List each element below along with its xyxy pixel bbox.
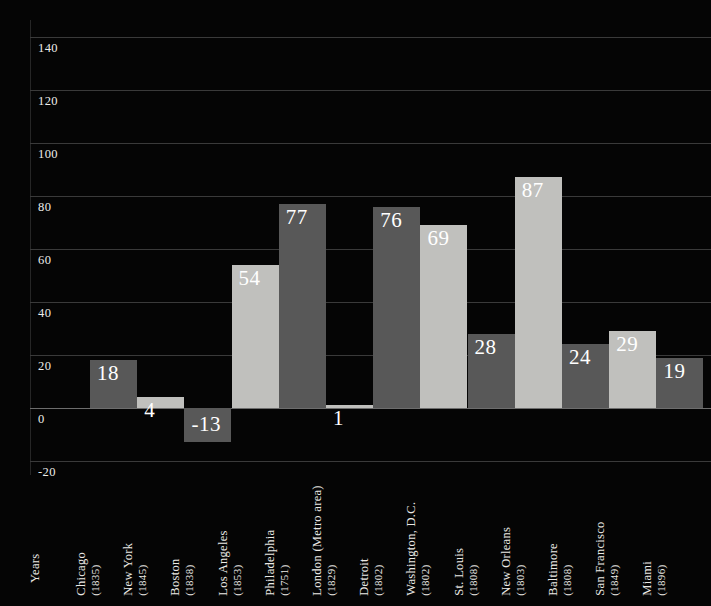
x-category-year: (1845) — [136, 543, 149, 596]
x-category-year: (1802) — [419, 502, 432, 596]
x-category-name: New Orleans — [499, 527, 513, 596]
x-category-year: (1829) — [325, 485, 338, 596]
x-category-label: Philadelphia(1751) — [263, 530, 291, 596]
x-category-year: (1808) — [561, 543, 574, 596]
x-category-year: (1849) — [608, 521, 621, 595]
x-category-label: Boston(1838) — [169, 558, 197, 595]
x-category-year: (1802) — [372, 558, 385, 596]
x-category-label: Baltimore(1808) — [546, 543, 574, 596]
x-category-name: Philadelphia — [263, 530, 277, 596]
x-category-name: Detroit — [357, 558, 371, 596]
x-category-label: Chicago(1835) — [74, 552, 102, 596]
x-category-name: London (Metro area) — [310, 485, 324, 596]
x-axis-labels-group: Years Chicago(1835)New York(1845)Boston(… — [0, 0, 711, 606]
x-category-label: New Orleans(1803) — [499, 527, 527, 596]
x-category-name: Washington, D.C. — [405, 502, 419, 596]
x-category-year: (1896) — [655, 561, 668, 596]
x-category-name: Miami — [641, 561, 655, 596]
x-category-year: (1803) — [514, 527, 527, 596]
x-category-name: Los Angeles — [216, 530, 230, 595]
x-category-name: Boston — [169, 558, 183, 595]
x-category-name: New York — [121, 543, 135, 596]
chart-canvas: 140120100806040200-20 184-13547717669288… — [0, 0, 711, 606]
x-category-year: (1838) — [183, 558, 196, 595]
x-category-name: St. Louis — [452, 548, 466, 596]
x-axis-title: Years — [28, 554, 43, 583]
x-category-name: Baltimore — [546, 543, 560, 596]
x-category-label: San Francisco(1849) — [593, 521, 621, 595]
x-category-label: London (Metro area)(1829) — [310, 485, 338, 596]
x-category-label: Washington, D.C.(1802) — [405, 502, 433, 596]
x-category-label: Detroit(1802) — [357, 558, 385, 596]
x-category-year: (1808) — [467, 548, 480, 596]
x-category-label: St. Louis(1808) — [452, 548, 480, 596]
x-category-label: Miami(1896) — [641, 561, 669, 596]
x-category-name: Chicago — [74, 552, 88, 596]
x-category-year: (1853) — [231, 530, 244, 595]
x-category-name: San Francisco — [593, 521, 607, 595]
x-category-label: Los Angeles(1853) — [216, 530, 244, 595]
x-category-year: (1835) — [89, 552, 102, 596]
x-category-label: New York(1845) — [121, 543, 149, 596]
x-category-year: (1751) — [278, 530, 291, 596]
